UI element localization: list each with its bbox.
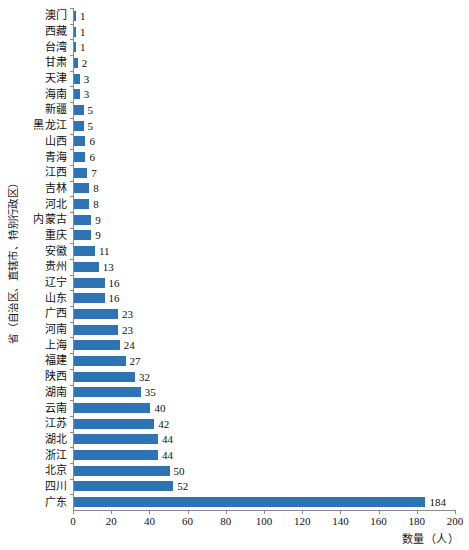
- x-axis-tick: [340, 510, 341, 514]
- category-label: 江苏: [45, 417, 67, 430]
- bar[interactable]: [74, 419, 154, 429]
- bar[interactable]: [74, 466, 170, 476]
- category-label: 海南: [45, 88, 67, 101]
- x-axis-tick: [302, 510, 303, 514]
- category-label: 山西: [45, 135, 67, 148]
- bar[interactable]: [74, 293, 105, 303]
- x-axis-tick-label: 20: [106, 515, 117, 527]
- category-label: 内蒙古: [33, 213, 67, 226]
- y-axis-tick: [70, 494, 73, 495]
- bar-value-label: 42: [158, 418, 169, 430]
- y-axis-tick: [70, 416, 73, 417]
- y-axis-tick: [70, 86, 73, 87]
- bar-value-label: 9: [95, 229, 101, 241]
- bar[interactable]: [74, 152, 85, 162]
- bar[interactable]: [74, 183, 89, 193]
- y-axis-tick: [70, 322, 73, 323]
- bar-value-label: 1: [80, 26, 86, 38]
- category-label: 山东: [45, 292, 67, 305]
- category-label: 河南: [45, 323, 67, 336]
- category-label: 云南: [45, 402, 67, 415]
- bar[interactable]: [74, 340, 120, 350]
- bar[interactable]: [74, 58, 78, 68]
- y-axis-tick: [70, 134, 73, 135]
- bar[interactable]: [74, 215, 91, 225]
- bar[interactable]: [74, 262, 99, 272]
- x-axis-tick-label: 80: [220, 515, 231, 527]
- y-axis-tick: [70, 8, 73, 9]
- y-axis-tick: [70, 337, 73, 338]
- bar[interactable]: [74, 136, 85, 146]
- y-axis-tick: [70, 243, 73, 244]
- category-label: 北京: [45, 464, 67, 477]
- bar-value-label: 5: [88, 104, 94, 116]
- x-axis-tick-label: 100: [256, 515, 273, 527]
- bar[interactable]: [74, 42, 76, 52]
- category-label: 天津: [45, 72, 67, 85]
- y-axis-tick: [70, 275, 73, 276]
- bar-value-label: 6: [89, 151, 95, 163]
- bar[interactable]: [74, 325, 118, 335]
- x-axis-tick: [188, 510, 189, 514]
- bar[interactable]: [74, 199, 89, 209]
- category-label: 河北: [45, 198, 67, 211]
- y-axis-tick: [70, 432, 73, 433]
- bar[interactable]: [74, 246, 95, 256]
- x-axis-tick-label: 140: [332, 515, 349, 527]
- x-axis-tick-label: 200: [447, 515, 464, 527]
- bar[interactable]: [74, 105, 84, 115]
- bar-value-label: 3: [84, 88, 90, 100]
- y-axis-tick: [70, 479, 73, 480]
- bar-value-label: 7: [91, 167, 97, 179]
- bar[interactable]: [74, 121, 84, 131]
- x-axis-tick: [455, 510, 456, 514]
- category-label: 福建: [45, 354, 67, 367]
- x-axis-tick: [226, 510, 227, 514]
- y-axis-tick: [70, 290, 73, 291]
- y-axis-title: 省（自治区、直辖市、特别行政区）: [0, 0, 24, 520]
- bar[interactable]: [74, 372, 135, 382]
- bar-value-label: 16: [109, 277, 120, 289]
- y-axis-tick: [70, 165, 73, 166]
- bar-value-label: 32: [139, 371, 150, 383]
- bar[interactable]: [74, 74, 80, 84]
- category-label: 湖南: [45, 386, 67, 399]
- x-axis-tick-label: 0: [70, 515, 76, 527]
- x-axis-tick-label: 180: [409, 515, 426, 527]
- bar-value-label: 16: [109, 292, 120, 304]
- category-axis-labels: 澳门西藏台湾甘肃天津海南新疆黑龙江山西青海江西吉林河北内蒙古重庆安徽贵州辽宁山东…: [24, 8, 70, 510]
- x-axis-tick: [379, 510, 380, 514]
- y-axis-tick: [70, 39, 73, 40]
- category-label: 甘肃: [45, 56, 67, 69]
- y-axis-tick: [70, 118, 73, 119]
- category-label: 吉林: [45, 182, 67, 195]
- bar[interactable]: [74, 434, 158, 444]
- bar-value-label: 27: [130, 355, 141, 367]
- bar[interactable]: [74, 403, 150, 413]
- x-axis-title: 数量（人）: [402, 530, 459, 546]
- category-label: 澳门: [45, 9, 67, 22]
- category-label: 四川: [45, 480, 67, 493]
- bar[interactable]: [74, 497, 425, 507]
- bar[interactable]: [74, 278, 105, 288]
- category-label: 重庆: [45, 229, 67, 242]
- bar[interactable]: [74, 89, 80, 99]
- bar[interactable]: [74, 230, 91, 240]
- bar[interactable]: [74, 27, 76, 37]
- bar[interactable]: [74, 309, 118, 319]
- bar[interactable]: [74, 168, 87, 178]
- bar-value-label: 50: [174, 465, 185, 477]
- bar[interactable]: [74, 356, 126, 366]
- bar[interactable]: [74, 481, 173, 491]
- y-axis-tick: [70, 24, 73, 25]
- bar[interactable]: [74, 11, 76, 21]
- y-axis-tick: [70, 400, 73, 401]
- bar[interactable]: [74, 450, 158, 460]
- y-axis-tick: [70, 181, 73, 182]
- plot-area: 1112335566788991113161623232427323540424…: [73, 8, 455, 510]
- x-axis-ticks: 020406080100120140160180200: [73, 510, 455, 532]
- bar[interactable]: [74, 387, 141, 397]
- bar-value-label: 9: [95, 214, 101, 226]
- y-axis-tick: [70, 369, 73, 370]
- y-axis-tick: [70, 463, 73, 464]
